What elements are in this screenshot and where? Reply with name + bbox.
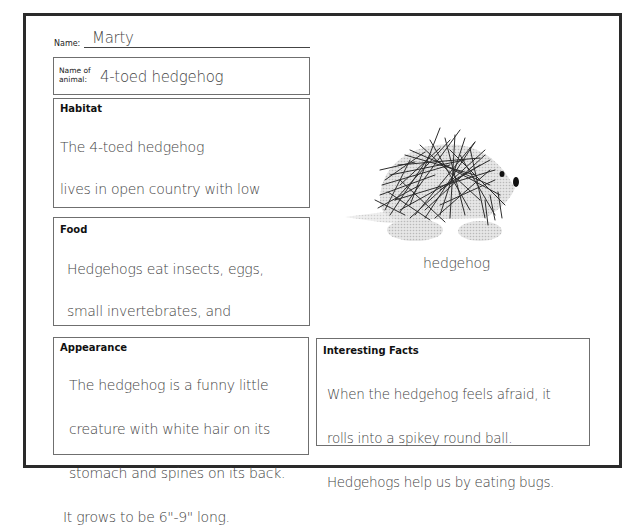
facts-line: Hedgehogs help us by eating bugs. [327, 471, 589, 493]
student-name-row: Name: Marty [54, 28, 310, 50]
interesting-facts-title: Interesting Facts [323, 345, 419, 356]
appearance-line: stomach and spines on its back. [60, 462, 310, 484]
habitat-line: lives in open country with low [60, 179, 310, 200]
facts-line: rolls into a spikey round ball. [327, 427, 589, 449]
habitat-line: The 4-toed hedgehog [60, 137, 310, 158]
habitat-title: Habitat [60, 103, 102, 114]
student-name-value[interactable]: Marty [92, 29, 134, 47]
appearance-line: The hedgehog is a funny little [60, 374, 310, 396]
animal-name-box: Name of animal: 4-toed hedgehog [53, 57, 310, 95]
food-title: Food [60, 224, 87, 235]
interesting-facts-text[interactable]: When the hedgehog feels afraid, it rolls… [327, 361, 589, 515]
food-box: Food Hedgehogs eat insects, eggs, small … [53, 217, 310, 326]
name-underline [84, 47, 310, 48]
animal-label-line2: animal: [59, 75, 91, 84]
appearance-box: Appearance The hedgehog is a funny littl… [53, 337, 309, 455]
illustration-caption: hedgehog [423, 255, 490, 271]
hedgehog-illustration-icon [340, 100, 530, 250]
food-line: Hedgehogs eat insects, eggs, [67, 259, 307, 280]
name-label: Name: [54, 39, 80, 48]
animal-name-value[interactable]: 4-toed hedgehog [100, 68, 223, 86]
animal-name-label: Name of animal: [59, 66, 91, 84]
appearance-line: creature with white hair on its [60, 418, 310, 440]
animal-label-line1: Name of [59, 66, 91, 75]
habitat-box: Habitat The 4-toed hedgehog lives in ope… [53, 98, 310, 208]
appearance-line: It grows to be 6"-9" long. [60, 506, 310, 528]
appearance-text[interactable]: The hedgehog is a funny little creature … [60, 352, 310, 529]
food-line: small invertebrates, and [67, 301, 307, 322]
interesting-facts-box: Interesting Facts When the hedgehog feel… [316, 338, 590, 446]
facts-line: When the hedgehog feels afraid, it [327, 383, 589, 405]
